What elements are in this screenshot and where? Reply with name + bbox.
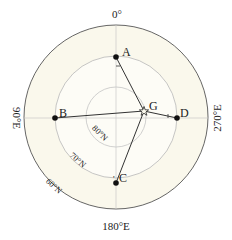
point-d <box>174 115 180 121</box>
label-d: D <box>180 106 189 120</box>
polar-map-diagram: A B C D G ' 0° 180°E 90°E 270°E 80°N 70°… <box>0 0 232 240</box>
longitude-label-left: 90°E <box>11 107 23 129</box>
point-b <box>52 115 58 121</box>
longitude-label-bottom: 180°E <box>102 220 130 232</box>
label-a: A <box>122 45 131 59</box>
point-a <box>113 54 119 60</box>
longitude-label-right: 270°E <box>211 104 223 132</box>
label-c: C <box>119 171 127 185</box>
longitude-label-top: 0° <box>112 8 122 20</box>
label-b: B <box>59 106 67 120</box>
label-g: G <box>149 99 158 113</box>
